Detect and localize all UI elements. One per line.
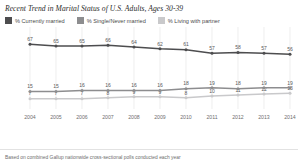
x-tick-label-2007: 2007 [102,114,114,120]
data-point[interactable] [289,53,292,56]
data-point[interactable] [159,95,162,98]
x-tick-label-2009: 2009 [154,114,166,120]
data-label: 57 [261,45,267,51]
data-point[interactable] [55,90,58,93]
data-point[interactable] [289,92,292,95]
data-label: 19 [287,80,293,86]
data-label: 65 [53,38,59,44]
data-label: 19 [261,80,267,86]
data-point[interactable] [185,87,188,90]
data-label: 57 [209,45,215,51]
data-point[interactable] [237,51,240,54]
data-label: 8 [185,90,188,96]
x-tick-label-2012: 2012 [232,114,244,120]
chart-container: Recent Trend in Marital Status of U.S. A… [0,0,298,163]
x-tick-label-2005: 2005 [50,114,62,120]
data-point[interactable] [29,90,32,93]
data-point[interactable] [185,96,188,99]
data-point[interactable] [81,97,84,100]
data-label: 16 [105,82,111,88]
data-label: 16 [131,82,137,88]
data-label: 16 [157,82,163,88]
data-point[interactable] [211,52,214,55]
data-point[interactable] [211,94,214,97]
data-point[interactable] [107,89,110,92]
data-point[interactable] [107,96,110,99]
data-point[interactable] [81,89,84,92]
x-tick-label-2013: 2013 [258,114,270,120]
data-label: 18 [235,80,241,86]
data-point[interactable] [159,89,162,92]
plot-area: 7778998101112131515161616161819181919676… [0,27,298,127]
line-chart-svg: 7778998101112131515161616161819181919676… [0,27,298,127]
legend-item-single-never-married[interactable]: % Single/Never married [77,17,146,24]
legend-swatch-living-with-partner [158,17,165,24]
data-label: 64 [131,39,137,45]
data-label: 61 [183,41,189,47]
data-point[interactable] [159,47,162,50]
data-point[interactable] [289,86,292,89]
data-label: 56 [287,46,293,52]
data-point[interactable] [237,94,240,97]
data-point[interactable] [263,52,266,55]
x-tick-label-2006: 2006 [76,114,88,120]
data-point[interactable] [29,97,32,100]
data-label: 15 [53,83,59,89]
data-label: 58 [235,44,241,50]
x-tick-label-2008: 2008 [128,114,140,120]
data-label: 62 [157,41,163,47]
footnote-divider [0,149,298,150]
data-point[interactable] [55,97,58,100]
legend-label-currently-married: % Currently married [15,18,65,24]
data-point[interactable] [55,45,58,48]
data-point[interactable] [237,87,240,90]
data-point[interactable] [81,45,84,48]
data-label: 66 [105,37,111,43]
data-point[interactable] [211,86,214,89]
data-label: 65 [79,38,85,44]
legend-swatch-single-never-married [77,17,84,24]
data-point[interactable] [29,43,32,46]
data-point[interactable] [133,95,136,98]
legend-label-single-never-married: % Single/Never married [87,18,146,24]
legend-swatch-currently-married [5,17,12,24]
data-label: 16 [79,82,85,88]
data-point[interactable] [133,89,136,92]
data-label: 67 [27,36,33,42]
legend-label-living-with-partner: % Living with partner [168,18,220,24]
legend-item-currently-married[interactable]: % Currently married [5,17,65,24]
chart-legend: % Currently married % Single/Never marri… [0,13,298,24]
x-tick-label-2010: 2010 [180,114,192,120]
legend-item-living-with-partner[interactable]: % Living with partner [158,17,220,24]
data-point[interactable] [107,44,110,47]
data-label: 19 [209,80,215,86]
data-point[interactable] [263,93,266,96]
x-tick-label-2011: 2011 [206,114,217,120]
chart-title: Recent Trend in Marital Status of U.S. A… [0,0,298,13]
data-label: 15 [27,83,33,89]
data-label: 18 [183,80,189,86]
data-point[interactable] [263,86,266,89]
x-tick-label-2004: 2004 [24,114,36,120]
chart-footnote: Based on combined Gallup nationwide cros… [5,155,181,160]
data-point[interactable] [133,45,136,48]
data-point[interactable] [185,48,188,51]
x-tick-label-2014: 2014 [284,114,296,120]
